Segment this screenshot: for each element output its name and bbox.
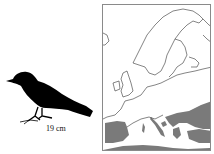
bird-silhouette-icon	[2, 66, 97, 126]
range-map	[102, 4, 211, 151]
europe-map-icon	[103, 5, 211, 151]
range-area	[103, 101, 211, 151]
cropped-heading-fragment: ··· ···	[48, 0, 67, 4]
size-label: 19 cm	[46, 124, 66, 133]
